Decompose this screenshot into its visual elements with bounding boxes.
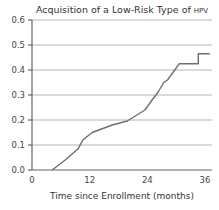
x-axis-ticks: 0122436 [29,175,210,185]
x-tick-label: 36 [200,175,211,185]
y-tick-label: 0.3 [11,90,25,100]
y-tick-label: 0.5 [11,40,25,50]
x-tick-label: 0 [29,175,34,185]
chart-title-main: Acquisition of a Low-Risk Type of [36,4,192,15]
series-group [52,54,210,170]
chart-title: Acquisition of a Low-Risk Type of HPV [36,4,208,15]
x-tick-label: 24 [142,175,153,185]
series-line [52,54,210,170]
gridlines [32,20,212,145]
y-tick-label: 0.1 [11,140,25,150]
x-tick-label: 12 [84,175,95,185]
y-tick-label: 0.2 [11,115,25,125]
y-axis-ticks: 0.00.10.20.30.40.50.6 [11,15,32,175]
y-tick-label: 0.6 [11,15,25,25]
chart-title-suffix: HPV [194,7,208,15]
chart: Acquisition of a Low-Risk Type of HPV 0.… [0,0,219,210]
x-axis-label: Time since Enrollment (months) [49,191,194,201]
y-tick-label: 0.4 [11,65,25,75]
y-tick-label: 0.0 [11,165,25,175]
